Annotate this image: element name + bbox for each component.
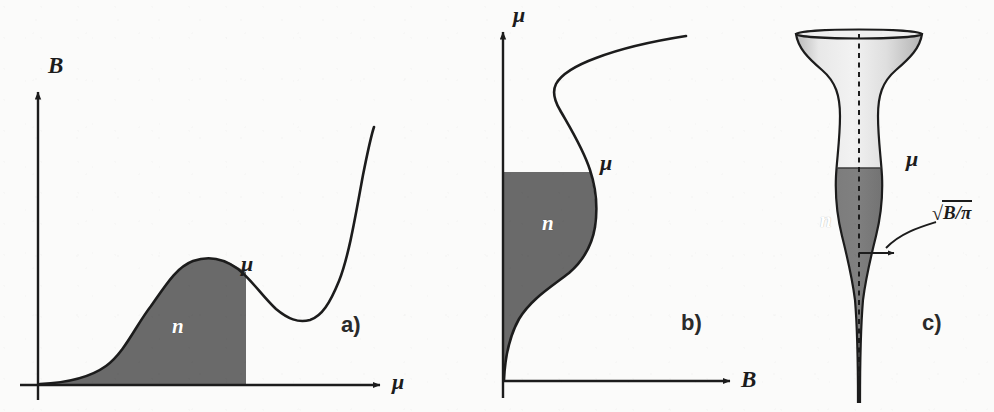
curve-label-mu-b: μ — [600, 152, 612, 174]
panel-caption-b: b) — [681, 312, 702, 334]
radius-leader-line — [886, 222, 936, 248]
axis-label-mu-b: μ — [513, 4, 525, 26]
radical-sign: √ — [932, 202, 943, 224]
radius-label-sqrt-b-over-pi: √B/π — [932, 202, 972, 222]
radicand: B/π — [942, 200, 972, 223]
shaded-region-n-a — [40, 259, 246, 384]
boundary-label-mu-c: μ — [906, 148, 918, 170]
panel-caption-a: a) — [341, 314, 361, 336]
panel-a: B μ μ n a) — [0, 0, 400, 412]
region-label-n-a: n — [172, 316, 184, 337]
curve-label-mu-a: μ — [241, 253, 253, 275]
panel-b: μ B μ n b) — [400, 0, 760, 412]
panel-c: μ n √B/π c) — [760, 0, 994, 412]
axis-label-b-b: B — [741, 368, 756, 391]
figure-root: B μ μ n a) μ B μ n b) — [0, 0, 994, 412]
panel-b-plot — [400, 0, 760, 412]
region-label-n-c: n — [820, 210, 832, 231]
region-label-n-b: n — [542, 213, 554, 234]
axis-label-b-a: B — [48, 54, 63, 77]
shaded-region-n-b — [503, 172, 595, 380]
panel-caption-c: c) — [922, 312, 942, 334]
